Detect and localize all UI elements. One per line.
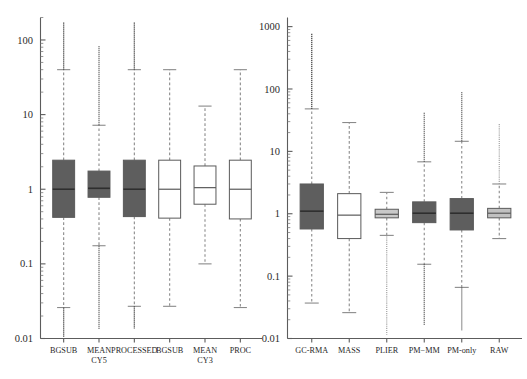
y-tick-label: 100 bbox=[264, 84, 280, 95]
x-axis-category-label: PM−MM bbox=[409, 346, 441, 355]
box-rect bbox=[300, 184, 323, 229]
figure-background bbox=[0, 0, 527, 379]
y-tick-label: 100 bbox=[17, 35, 33, 46]
y-tick-label: 0.01 bbox=[15, 333, 33, 344]
x-axis-category-sublabel: CY5 bbox=[91, 356, 106, 365]
y-tick-label: 1 bbox=[275, 208, 280, 219]
y-tick-label: 10 bbox=[23, 109, 34, 120]
y-tick-label: 0.1 bbox=[20, 258, 33, 269]
x-axis-category-label: RAW bbox=[490, 346, 509, 355]
x-axis-category-label: PLIER bbox=[375, 346, 398, 355]
x-axis-category-sublabel: CY3 bbox=[197, 356, 212, 365]
x-axis-category-label: MEAN bbox=[193, 346, 217, 355]
box-rect bbox=[450, 199, 473, 230]
box-rect bbox=[88, 171, 110, 197]
box-rect bbox=[194, 166, 216, 204]
x-axis-category-label: GC-RMA bbox=[295, 346, 328, 355]
x-axis-category-label: BGSUB bbox=[156, 346, 184, 355]
x-axis-category-label: MEAN bbox=[87, 346, 111, 355]
box-rect bbox=[123, 160, 145, 216]
x-axis-category-label: PROCESSED bbox=[111, 346, 157, 355]
y-tick-label: 1 bbox=[28, 184, 33, 195]
x-axis-category-label: PM-only bbox=[447, 346, 477, 355]
boxplot-figure: 0.010.1110100BGSUBMEANCY5PROCESSEDBGSUBM… bbox=[0, 0, 527, 379]
x-axis-category-label: PROC bbox=[230, 346, 252, 355]
x-axis-category-label: BGSUB bbox=[50, 346, 78, 355]
figure-canvas: 0.010.1110100BGSUBMEANCY5PROCESSEDBGSUBM… bbox=[0, 0, 527, 379]
x-axis-category-label: MASS bbox=[338, 346, 361, 355]
box-rect bbox=[413, 202, 436, 223]
y-tick-label: 10 bbox=[270, 146, 281, 157]
y-tick-label: 0.01 bbox=[262, 333, 280, 344]
box-rect bbox=[375, 209, 398, 218]
y-tick-label: 1000 bbox=[259, 21, 280, 32]
box-rect bbox=[338, 194, 361, 239]
y-tick-label: 0.1 bbox=[267, 271, 280, 282]
